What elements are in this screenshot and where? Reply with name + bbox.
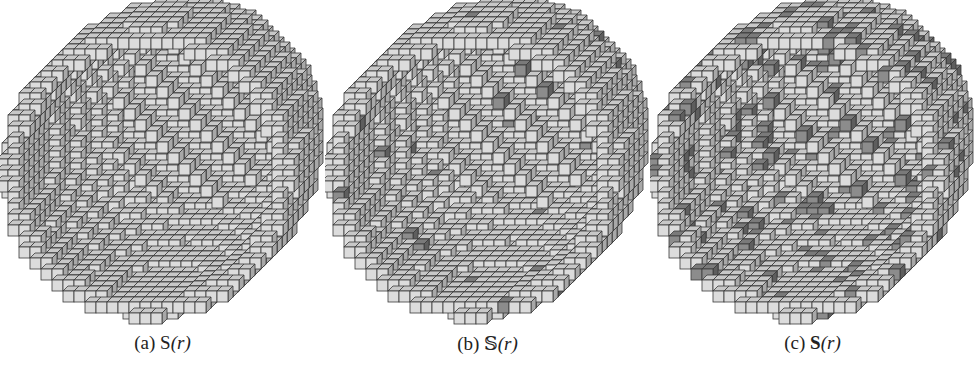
caption-b: (b) 𝕊(r) bbox=[325, 332, 650, 355]
voxel-sphere-b bbox=[325, 0, 650, 330]
caption-a: (a) S(r) bbox=[0, 332, 325, 354]
voxel-sphere-a bbox=[0, 0, 325, 330]
caption-symbol: S bbox=[810, 332, 821, 353]
caption-arg: (r) bbox=[171, 332, 191, 353]
caption-label: (c) bbox=[784, 332, 805, 353]
panel-a: (a) S(r) bbox=[0, 0, 325, 384]
voxel-sphere-c bbox=[650, 0, 975, 330]
caption-label: (a) bbox=[134, 332, 155, 353]
caption-symbol: 𝕊 bbox=[484, 332, 498, 354]
caption-c: (c) S(r) bbox=[650, 332, 975, 354]
caption-arg: (r) bbox=[821, 332, 841, 353]
panel-b: (b) 𝕊(r) bbox=[325, 0, 650, 384]
caption-label: (b) bbox=[457, 333, 479, 354]
panel-c: (c) S(r) bbox=[650, 0, 975, 384]
caption-symbol: S bbox=[160, 332, 171, 353]
caption-arg: (r) bbox=[498, 333, 518, 354]
